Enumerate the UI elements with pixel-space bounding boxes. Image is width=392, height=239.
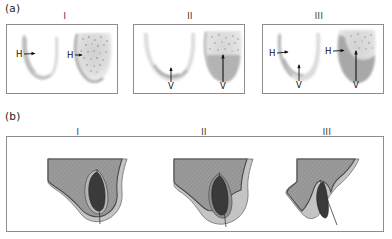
scan-frame-a-3: H V H V xyxy=(262,24,384,94)
scan-image-a-2: V V xyxy=(134,25,244,93)
panel-label-b: (b) xyxy=(5,110,20,122)
svg-text:V: V xyxy=(168,81,174,91)
scan-frame-a-1: H H xyxy=(6,24,118,94)
svg-text:H: H xyxy=(325,46,331,56)
panel-a-column-label-3: III xyxy=(304,12,334,21)
scan-bone-outline-right xyxy=(75,33,111,82)
scan-bone-outline-left xyxy=(22,35,58,79)
diagram-image-b xyxy=(7,137,383,231)
svg-text:H: H xyxy=(16,49,22,59)
panel-a-column-label-1: I xyxy=(50,12,80,21)
svg-text:H: H xyxy=(67,50,73,60)
svg-text:V: V xyxy=(296,80,302,90)
scan-image-a-3: H V H V xyxy=(263,25,383,93)
bone-diagram-b-3 xyxy=(286,159,359,225)
figure-root: (a) I II III xyxy=(0,0,392,239)
svg-text:V: V xyxy=(353,80,359,90)
panel-label-a: (a) xyxy=(5,2,20,14)
bone-diagram-b-2 xyxy=(174,159,253,227)
scan-image-a-1: H H xyxy=(7,25,117,93)
svg-text:V: V xyxy=(220,81,226,91)
diagram-frame-b xyxy=(6,136,384,232)
bone-diagram-b-1 xyxy=(48,159,127,224)
svg-text:H: H xyxy=(269,48,275,58)
scan-bone-outline-left xyxy=(144,33,195,81)
scan-frame-a-2: V V xyxy=(133,24,245,94)
panel-a-column-label-2: II xyxy=(175,12,205,21)
